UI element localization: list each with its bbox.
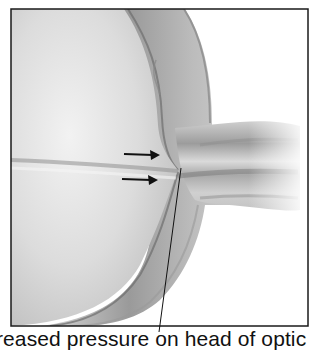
illustration-body xyxy=(11,9,308,326)
figure-caption: reased pressure on head of optic xyxy=(0,326,320,352)
